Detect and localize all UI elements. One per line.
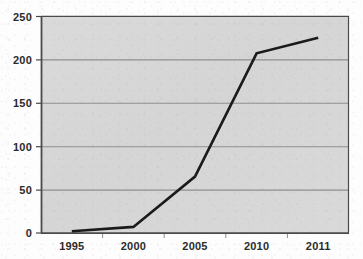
- x-axis-label-2000: 2000: [121, 241, 146, 252]
- y-axis-label-200: 200: [2, 54, 32, 65]
- x-axis-label-2011: 2011: [306, 241, 331, 252]
- line-chart: 250 200 150 100 50 0 1995 2000 2005 2010…: [0, 0, 363, 259]
- y-axis-label-150: 150: [2, 98, 32, 109]
- y-axis-ticks: [36, 17, 41, 234]
- x-axis-label-2010: 2010: [244, 241, 269, 252]
- x-axis-label-2005: 2005: [182, 241, 207, 252]
- y-axis-label-0: 0: [2, 228, 32, 239]
- y-axis-label-50: 50: [2, 185, 32, 196]
- x-axis-label-1995: 1995: [59, 241, 84, 252]
- y-axis-label-250: 250: [2, 11, 32, 22]
- plot-area-background: [41, 16, 349, 233]
- chart-canvas: [0, 0, 363, 259]
- y-axis-label-100: 100: [2, 141, 32, 152]
